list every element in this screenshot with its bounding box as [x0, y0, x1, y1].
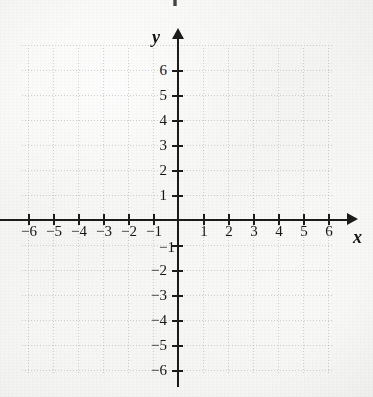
gridline-vertical [28, 48, 29, 375]
y-axis-tick-label: −3 [137, 288, 167, 303]
gridline-vertical [253, 48, 254, 375]
y-axis-tick [172, 320, 183, 322]
y-axis-tick-label: 3 [137, 138, 167, 153]
y-axis-arrowhead-icon [172, 28, 184, 39]
y-axis-tick-label: 2 [137, 163, 167, 178]
gridline-vertical [53, 48, 54, 375]
coordinate-plane-figure: −6−5−4−3−2−1123456 654321−1−2−3−4−5−6 x … [0, 0, 373, 397]
y-axis-tick [172, 170, 183, 172]
gridline-vertical [128, 48, 129, 375]
y-axis-tick-label: −5 [137, 338, 167, 353]
x-axis-label: x [353, 228, 362, 246]
y-axis-line [177, 38, 179, 387]
y-axis-tick-label: −4 [137, 313, 167, 328]
y-axis-tick-label: 6 [137, 63, 167, 78]
y-axis-tick [172, 70, 183, 72]
y-axis-tick [172, 270, 183, 272]
y-axis-tick [172, 145, 183, 147]
y-axis-tick-label: −2 [137, 263, 167, 278]
y-axis-tick-label: 5 [137, 88, 167, 103]
x-axis-tick-label: −1 [139, 224, 169, 239]
y-axis-tick [172, 95, 183, 97]
gridline-vertical [203, 48, 204, 375]
x-axis-tick-label: 6 [314, 224, 344, 239]
gridline-vertical [103, 48, 104, 375]
gridline-vertical [228, 48, 229, 375]
gridline-vertical [78, 48, 79, 375]
y-axis-tick [172, 295, 183, 297]
y-axis-tick-label: 1 [137, 188, 167, 203]
y-axis-tick [172, 195, 183, 197]
gridline-vertical [303, 48, 304, 375]
y-axis-tick [172, 345, 183, 347]
gridline-vertical [278, 48, 279, 375]
y-axis-tick [172, 120, 183, 122]
x-axis-arrowhead-icon [347, 213, 358, 225]
y-axis-tick-label: −6 [137, 363, 167, 378]
y-axis-tick [172, 370, 183, 372]
y-axis-tick-label: −1 [145, 240, 175, 255]
gridline-vertical [328, 48, 329, 375]
y-axis-tick-label: 4 [137, 113, 167, 128]
y-axis-label: y [152, 28, 160, 46]
